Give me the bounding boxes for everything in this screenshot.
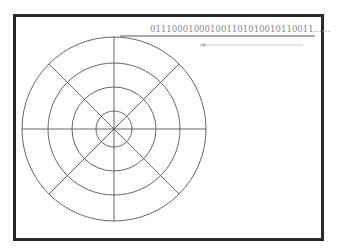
polar-grid <box>0 0 337 252</box>
arrow-left-icon <box>200 44 303 47</box>
bitstream-label: 011100010001001101010010110011...... <box>150 24 330 34</box>
